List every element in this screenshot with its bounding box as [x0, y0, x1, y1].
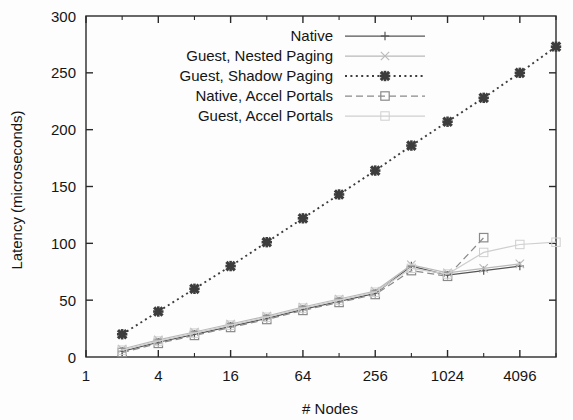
y-tick-label: 0 [68, 349, 76, 366]
y-tick-label: 150 [51, 178, 76, 195]
series-2 [117, 41, 561, 339]
legend-label: Guest, Accel Portals [198, 107, 333, 124]
x-tick-label: 4096 [503, 367, 536, 384]
chart-legend: NativeGuest, Nested PagingGuest, Shadow … [180, 27, 425, 124]
y-tick-label: 100 [51, 235, 76, 252]
series-0 [118, 262, 524, 356]
legend-item-0: Native [290, 27, 425, 44]
legend-item-2: Guest, Shadow Paging [180, 67, 425, 84]
y-tick-label: 300 [51, 8, 76, 25]
y-tick-label: 200 [51, 121, 76, 138]
y-tick-label: 50 [59, 292, 76, 309]
chart-figure: 050100150200250300 14166425610244096 Nat… [0, 0, 573, 420]
legend-label: Guest, Nested Paging [186, 47, 333, 64]
legend-item-3: Native, Accel Portals [195, 87, 425, 104]
x-axis-label: # Nodes [302, 400, 358, 417]
y-tick-label: 250 [51, 64, 76, 81]
series-layer [117, 41, 561, 356]
y-axis-label: Latency (microseconds) [8, 110, 25, 269]
x-tick-label: 256 [363, 367, 388, 384]
chart-canvas: 050100150200250300 14166425610244096 Nat… [0, 0, 573, 420]
legend-label: Guest, Shadow Paging [180, 67, 333, 84]
legend-label: Native, Accel Portals [195, 87, 333, 104]
x-tick-label: 16 [222, 367, 239, 384]
x-tick-label: 1024 [431, 367, 464, 384]
legend-label: Native [290, 27, 333, 44]
x-tick-label: 1 [82, 367, 90, 384]
legend-item-4: Guest, Accel Portals [198, 107, 425, 124]
legend-item-1: Guest, Nested Paging [186, 47, 425, 64]
x-tick-label: 64 [295, 367, 312, 384]
x-tick-label: 4 [154, 367, 162, 384]
